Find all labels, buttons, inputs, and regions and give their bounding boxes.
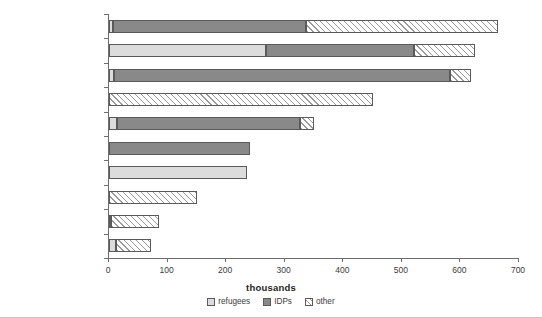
bar-segment-refugees [109,166,247,179]
x-tick-label: 700 [511,265,525,275]
legend-label: IDPs [274,297,292,306]
bar-segment-refugees [109,117,117,130]
x-tick [225,258,226,262]
idps-swatch-icon [263,298,271,306]
y-tick [104,112,108,113]
x-axis-line [108,258,518,259]
y-tick [104,87,108,88]
legend-label: other [316,297,335,306]
bar-segment-other [109,191,197,204]
y-tick [104,38,108,39]
x-axis-title: thousands [0,282,542,293]
x-tick-label: 600 [452,265,466,275]
legend-item-idps[interactable]: IDPs [263,297,292,306]
bar-segment-refugees [109,44,266,57]
legend-item-refugees[interactable]: refugees [207,297,250,306]
other-swatch-icon [305,298,313,306]
y-tick [104,234,108,235]
y-tick [104,136,108,137]
bar-segment-other [450,69,471,82]
x-tick [459,258,460,262]
bar-segment-other [111,215,158,228]
bar-segment-idps [114,69,450,82]
x-tick [342,258,343,262]
bar-segment-other [306,20,498,33]
bar-segment-refugees [109,239,116,252]
y-tick [104,14,108,15]
y-tick [104,160,108,161]
x-tick [284,258,285,262]
bar-segment-idps [266,44,414,57]
x-tick-label: 500 [394,265,408,275]
legend-item-other[interactable]: other [305,297,335,306]
chart-screenshot: 0100200300400500600700 Russian Fed.Serbi… [0,0,542,318]
bar-segment-other [414,44,476,57]
bar-segment-other [116,239,151,252]
chart-legend: refugeesIDPsother [0,297,542,306]
x-tick [518,258,519,262]
x-tick-label: 400 [335,265,349,275]
bar-segment-idps [117,117,300,130]
refugees-swatch-icon [207,298,215,306]
bar-segment-idps [113,20,307,33]
plot-area: 0100200300400500600700 Russian Fed.Serbi… [108,14,518,258]
x-tick [108,258,109,262]
bar-segment-other [109,93,373,106]
x-tick [167,258,168,262]
x-tick-label: 0 [106,265,111,275]
y-tick [104,258,108,259]
x-tick-label: 300 [277,265,291,275]
x-tick-label: 200 [218,265,232,275]
y-tick [104,63,108,64]
y-tick [104,209,108,210]
bar-segment-idps [109,142,250,155]
x-tick-label: 100 [159,265,173,275]
y-tick [104,185,108,186]
legend-label: refugees [218,297,250,306]
bar-segment-other [300,117,314,130]
x-tick [401,258,402,262]
